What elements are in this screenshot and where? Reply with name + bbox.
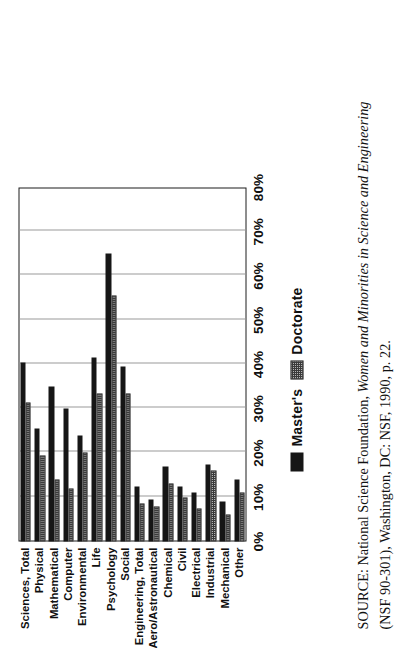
category-label-physical: Physical xyxy=(34,547,45,593)
bar-group xyxy=(219,187,229,541)
value-tick-label: 30% xyxy=(250,394,265,422)
value-tick-label: 0% xyxy=(250,531,265,551)
bar-doctorate-industrial xyxy=(210,470,215,541)
bar-group xyxy=(48,187,58,541)
category-label-mathematical: Mathematical xyxy=(48,547,59,619)
bar-masters-life xyxy=(91,357,96,541)
category-label-electrical: Electrical xyxy=(190,547,201,597)
bar-group xyxy=(134,187,144,541)
bar-group xyxy=(63,187,73,541)
value-tick-label: 50% xyxy=(250,306,265,334)
hatched-gray-swatch xyxy=(290,360,303,379)
category-label-industrial: Industrial xyxy=(205,547,216,598)
bar-masters-engineering-total xyxy=(134,486,139,541)
value-tick-label: 20% xyxy=(250,439,265,467)
bar-doctorate-life xyxy=(96,393,101,541)
bar-masters-industrial xyxy=(205,464,210,541)
value-tick-label: 40% xyxy=(250,350,265,378)
category-label-sciences-total: Sciences, Total xyxy=(19,547,30,628)
bar-masters-physical xyxy=(34,428,39,541)
chart-legend: Master'sDoctorate xyxy=(288,287,304,471)
category-label-aero-astronautical: Aero/Astronautical xyxy=(148,547,159,648)
category-label-computer: Computer xyxy=(62,547,73,600)
category-label-environmental: Environmental xyxy=(76,547,87,625)
value-tick-label: 10% xyxy=(250,483,265,511)
bar-masters-civil xyxy=(177,486,182,541)
category-label-social: Social xyxy=(119,547,130,580)
value-axis: 0%10%20%30%40%50%60%70%80% xyxy=(250,187,272,541)
bar-group xyxy=(77,187,87,541)
bar-masters-social xyxy=(120,366,125,541)
category-label-chemical: Chemical xyxy=(162,547,173,597)
category-label-engineering-total: Engineering, Total xyxy=(133,547,144,645)
source-note: SOURCE: National Science Foundation, Wom… xyxy=(352,69,395,629)
category-label-civil: Civil xyxy=(176,547,187,571)
bar-masters-other xyxy=(234,479,239,541)
bar-masters-electrical xyxy=(191,492,196,541)
bar-doctorate-electrical xyxy=(196,508,201,541)
bar-masters-mechanical xyxy=(219,501,224,541)
source-label: SOURCE: xyxy=(354,569,370,629)
source-part2: (NSF 90-301), Washington, DC: NSF, 1990,… xyxy=(376,340,392,629)
category-label-psychology: Psychology xyxy=(105,547,116,610)
bar-group xyxy=(148,187,158,541)
bar-doctorate-sciences-total xyxy=(25,402,30,541)
bar-group xyxy=(191,187,201,541)
bar-group xyxy=(162,187,172,541)
bar-masters-chemical xyxy=(162,466,167,541)
bar-doctorate-computer xyxy=(68,488,73,541)
bar-masters-aero-astronautical xyxy=(148,499,153,541)
bar-doctorate-chemical xyxy=(168,483,173,541)
legend-label: Master's xyxy=(288,388,304,446)
category-label-mechanical: Mechanical xyxy=(219,547,230,608)
bar-doctorate-psychology xyxy=(111,295,116,541)
legend-label: Doctorate xyxy=(288,287,304,354)
bar-group xyxy=(205,187,215,541)
category-axis: Sciences, TotalPhysicalMathematicalCompu… xyxy=(18,545,246,629)
value-tick-label: 60% xyxy=(250,262,265,290)
legend-item-doctorate: Doctorate xyxy=(288,287,304,379)
bar-masters-psychology xyxy=(105,253,110,541)
bars-layer xyxy=(18,187,246,541)
bar-doctorate-environmental xyxy=(82,453,87,542)
bar-masters-sciences-total xyxy=(20,362,25,541)
bar-group xyxy=(177,187,187,541)
legend-item-masters: Master's xyxy=(288,388,304,471)
bar-doctorate-social xyxy=(125,393,130,541)
bar-masters-environmental xyxy=(77,435,82,541)
bar-doctorate-mathematical xyxy=(54,479,59,541)
bar-doctorate-mechanical xyxy=(225,514,230,541)
bar-masters-mathematical xyxy=(48,386,53,541)
bar-group xyxy=(105,187,115,541)
bar-doctorate-aero-astronautical xyxy=(153,506,158,541)
bar-group xyxy=(91,187,101,541)
bar-doctorate-other xyxy=(239,492,244,541)
solid-black-swatch xyxy=(290,452,303,471)
value-tick-label: 80% xyxy=(250,173,265,201)
bar-group xyxy=(120,187,130,541)
category-label-life: Life xyxy=(91,547,102,567)
category-label-other: Other xyxy=(233,547,244,577)
source-part1: National Science Foundation, xyxy=(354,395,370,565)
bar-doctorate-engineering-total xyxy=(139,503,144,541)
value-tick-label: 70% xyxy=(250,217,265,245)
bar-group xyxy=(234,187,244,541)
bar-group xyxy=(20,187,30,541)
bar-group xyxy=(34,187,44,541)
bar-masters-computer xyxy=(63,408,68,541)
bar-doctorate-physical xyxy=(39,455,44,541)
source-title-italic: Women and Minorities in Science and Engi… xyxy=(354,101,370,392)
bar-doctorate-civil xyxy=(182,497,187,541)
